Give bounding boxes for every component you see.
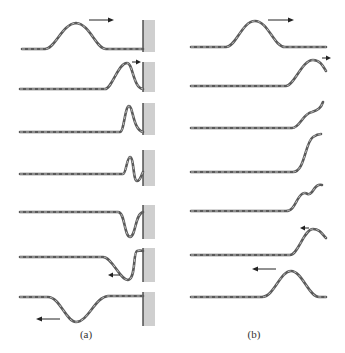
- string-frame-1: [22, 23, 143, 49]
- wall-block: [143, 150, 155, 186]
- panel-a: (a): [20, 18, 155, 342]
- panel-a-caption: (a): [80, 328, 93, 341]
- arrow-left-icon: [36, 317, 60, 322]
- panel-b-caption: (b): [248, 328, 261, 341]
- arrow-right-icon: [89, 18, 114, 23]
- wall-block: [143, 20, 155, 52]
- string-frame-7: [191, 271, 326, 297]
- rope-texture: [191, 102, 323, 128]
- rope-texture: [191, 21, 326, 47]
- string-frame-2: [20, 63, 143, 89]
- rope-texture: [20, 63, 143, 89]
- string-frame-3: [191, 102, 323, 128]
- rope-texture: [20, 251, 143, 280]
- wall-blocks: [143, 20, 155, 326]
- arrow-right-icon: [322, 56, 331, 61]
- string-frame-6: [20, 251, 143, 280]
- wall-block: [143, 205, 155, 239]
- string-frame-4: [191, 134, 321, 172]
- string-frame-6: [191, 229, 326, 255]
- string-frame-2: [191, 60, 326, 86]
- rope-texture: [191, 185, 322, 211]
- arrow-left-icon: [252, 267, 276, 272]
- string-frame-1: [191, 21, 326, 47]
- string-frame-5: [191, 185, 322, 211]
- arrow-right-icon: [268, 18, 294, 23]
- arrow-right-icon: [132, 60, 141, 65]
- arrow-left-icon: [300, 226, 309, 231]
- wall-block: [143, 62, 155, 92]
- panel-b: (b): [191, 18, 331, 342]
- wall-block: [143, 292, 155, 326]
- rope-texture: [20, 106, 143, 132]
- string-frame-5: [20, 212, 143, 237]
- wall-block: [143, 248, 155, 282]
- wave-reflection-diagram: (a) (b): [0, 0, 345, 353]
- string-frame-4: [20, 157, 143, 181]
- wall-block: [143, 103, 155, 135]
